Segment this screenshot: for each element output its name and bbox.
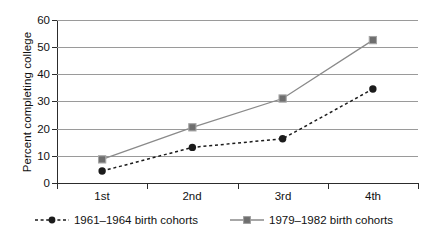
legend-item-1961-1964: 1961–1964 birth cohorts xyxy=(35,214,198,226)
square-marker xyxy=(99,156,106,163)
square-marker xyxy=(369,37,376,44)
square-marker xyxy=(189,124,196,131)
square-marker xyxy=(279,95,286,102)
line-chart: Percent completing college 60 50 40 30 2… xyxy=(0,0,428,240)
circle-marker xyxy=(98,167,105,174)
filled-square-marker-icon xyxy=(230,214,264,226)
circle-marker xyxy=(369,85,376,92)
series-1961-1964 xyxy=(98,85,376,174)
circle-marker xyxy=(279,135,286,142)
legend-label-1961-1964: 1961–1964 birth cohorts xyxy=(74,214,198,226)
legend-item-1979-1982: 1979–1982 birth cohorts xyxy=(230,214,393,226)
series-line xyxy=(102,40,373,159)
circle-marker xyxy=(189,144,196,151)
chart-legend: 1961–1964 birth cohorts 1979–1982 birth … xyxy=(0,214,428,226)
series-layer xyxy=(0,0,428,240)
legend-label-1979-1982: 1979–1982 birth cohorts xyxy=(269,214,393,226)
series-line xyxy=(102,89,373,171)
filled-circle-marker-icon xyxy=(35,214,69,226)
series-1979-1982 xyxy=(99,37,377,163)
